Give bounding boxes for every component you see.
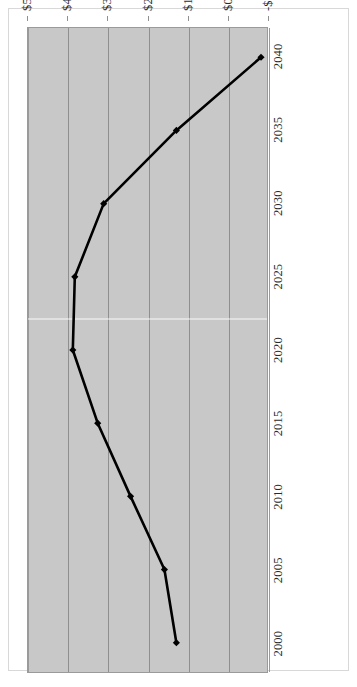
y-tick-label: $4,000: [60, 0, 75, 11]
x-tick-label: 2030: [271, 190, 286, 216]
x-tick-label: 2005: [271, 557, 286, 583]
y-tick-mark: [148, 16, 149, 21]
y-tick-mark: [107, 16, 108, 21]
y-tick-label: $5,000: [20, 0, 35, 11]
x-tick-label: 2015: [271, 411, 286, 437]
chart-page: 200020052010201520202025203020352040 $5,…: [0, 0, 357, 687]
x-tick-label: 2035: [271, 117, 286, 143]
y-tick-mark: [188, 16, 189, 21]
x-tick-label: 2020: [271, 337, 286, 363]
data-point-marker[interactable]: [71, 273, 78, 280]
rotated-chart-container: 200020052010201520202025203020352040 $5,…: [23, 23, 273, 675]
x-tick-label: 2040: [271, 43, 286, 69]
y-tick-mark: [228, 16, 229, 21]
y-tick-mark: [27, 16, 28, 21]
series-polyline: [73, 57, 261, 642]
y-tick-label: -$1,000: [261, 0, 276, 11]
gridline: [269, 28, 270, 672]
x-tick-label: 2025: [271, 264, 286, 290]
y-tick-mark: [67, 16, 68, 21]
page-border: 200020052010201520202025203020352040 $5,…: [8, 8, 349, 671]
y-tick-mark: [268, 16, 269, 21]
data-point-marker[interactable]: [173, 639, 180, 646]
y-tick-label: $1,000: [180, 0, 195, 11]
x-tick-label: 2010: [271, 484, 286, 510]
series-line: [28, 28, 267, 672]
y-tick-label: $3,000: [100, 0, 115, 11]
chart-canvas: 200020052010201520202025203020352040 $5,…: [23, 23, 273, 675]
y-tick-label: $0: [220, 0, 235, 11]
plot-area: [27, 27, 268, 673]
data-point-marker[interactable]: [69, 346, 76, 353]
x-tick-label: 2000: [271, 631, 286, 657]
y-tick-label: $2,000: [140, 0, 155, 11]
